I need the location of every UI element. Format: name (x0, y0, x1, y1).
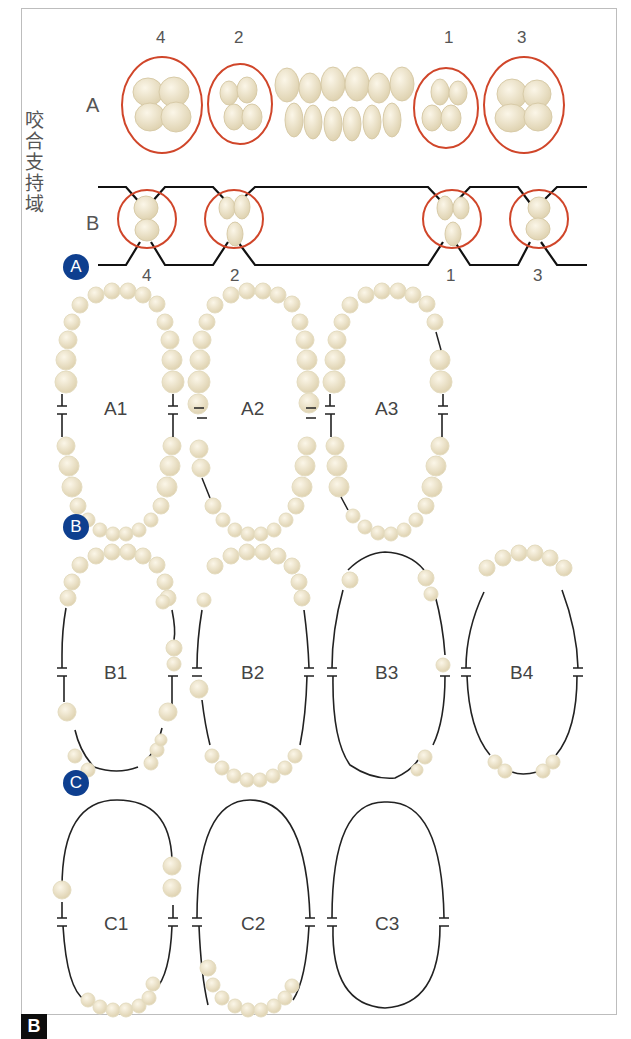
row-b-teeth (118, 190, 568, 248)
group-a-badge: A (63, 254, 89, 280)
row-a-teeth (122, 57, 564, 153)
arch-label-b1: B1 (104, 662, 127, 684)
zone-number-1-bottom: 1 (446, 266, 455, 286)
group-c-badge: C (63, 770, 89, 796)
zone-number-2-top: 2 (234, 28, 243, 48)
arch-label-c1: C1 (104, 913, 128, 935)
arch-label-a2: A2 (241, 398, 264, 420)
arch-label-a1: A1 (104, 398, 127, 420)
occlusal-support-zone-label: 咬合支持域 (24, 110, 44, 215)
row-b-schematic (98, 187, 587, 265)
row-a-label: A (86, 94, 99, 117)
zone-number-3-bottom: 3 (533, 266, 542, 286)
diagram-artwork (0, 0, 631, 1039)
arch-label-a3: A3 (375, 398, 398, 420)
arch-label-b3: B3 (375, 662, 398, 684)
group-c-arches (53, 800, 449, 1017)
zone-number-4-bottom: 4 (142, 266, 151, 286)
group-b-badge: B (63, 514, 89, 540)
zone-number-1-top: 1 (444, 28, 453, 48)
arch-label-c2: C2 (241, 913, 265, 935)
arch-label-b4: B4 (510, 662, 533, 684)
row-b-label: B (86, 212, 99, 235)
group-b-arches (57, 544, 583, 787)
figure-panel-label: B (21, 1014, 47, 1039)
zone-number-3-top: 3 (517, 28, 526, 48)
arch-label-c3: C3 (375, 913, 399, 935)
zone-number-2-bottom: 2 (230, 266, 239, 286)
arch-label-b2: B2 (241, 662, 264, 684)
zone-number-4-top: 4 (156, 28, 165, 48)
